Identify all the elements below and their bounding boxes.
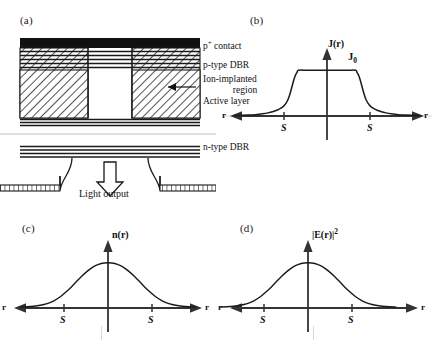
tick-label-minus-s-d: S: [260, 314, 266, 325]
optical-aperture: [88, 48, 132, 118]
n-contact-pad-left: [0, 185, 60, 191]
y-axis-arrow-c: [103, 240, 112, 252]
axis-title-nr: n(r): [112, 229, 129, 240]
x-axis-right-label-c: r: [205, 302, 209, 312]
figure-root: (a): [0, 0, 432, 350]
plot-carrier-density-svg: [0, 226, 216, 332]
plot-field-intensity: [216, 226, 432, 332]
y-axis-arrow-d: [303, 240, 312, 252]
n-contact-pad-right: [160, 185, 216, 191]
tick-label-plus-s-c: S: [148, 314, 154, 325]
plot-carrier-density: [0, 226, 216, 332]
axis-title-jr: J(r): [328, 38, 344, 49]
n-type-dbr-layers: [20, 147, 200, 158]
plot-current-density: [222, 34, 432, 140]
axis-title-field-intensity-exponent: 2: [334, 227, 338, 236]
x-axis-left-label-d: r: [218, 302, 222, 312]
value-label-j0-sub: 0: [353, 56, 357, 65]
scan-artifact-right: [313, 326, 314, 340]
tick-label-plus-s-b: S: [367, 122, 373, 133]
x-axis-left-label-c: r: [2, 302, 6, 312]
x-axis-right-label-d: r: [421, 302, 425, 312]
value-label-j0: J0: [348, 51, 357, 62]
label-n-type-dbr: n-type DBR: [203, 142, 249, 153]
p-contact-layer: [20, 38, 200, 48]
device-cross-section-svg: [0, 30, 216, 205]
panel-label-a: (a): [20, 14, 33, 26]
device-cross-section: [0, 30, 216, 205]
plot-current-density-svg: [222, 34, 432, 140]
x-axis-arrow-left-c: [14, 303, 26, 313]
x-axis-arrow-right-d: [406, 303, 418, 313]
scan-artifact-left: [101, 326, 102, 340]
implant-fill-right-lower: [132, 70, 200, 118]
plot-field-intensity-svg: [216, 226, 432, 332]
tick-label-plus-s-d: S: [348, 314, 354, 325]
x-axis-right-label-b: r: [424, 110, 428, 120]
panel-label-b: (b): [250, 14, 263, 26]
tick-label-minus-s-b: S: [281, 122, 287, 133]
active-layer: [20, 120, 200, 126]
label-light-output: Light output: [79, 188, 129, 199]
tick-label-minus-s-c: S: [60, 314, 66, 325]
x-axis-arrow-right-c: [190, 303, 202, 313]
axis-title-field-intensity: |E(r)|2: [312, 229, 338, 240]
y-axis-arrow-b: [322, 48, 331, 60]
x-axis-left-label-b: r: [222, 110, 226, 120]
implant-fill-left-lower: [20, 70, 88, 118]
